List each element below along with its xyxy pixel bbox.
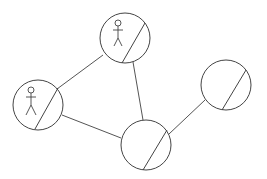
edge-left-top [57,55,103,89]
edge-top-bottom [133,62,143,120]
edge-bottom-right [169,100,205,134]
network-diagram [0,0,267,179]
node-top[interactable] [100,13,150,63]
node-bottom[interactable] [121,120,171,170]
edge-left-bottom [62,115,121,138]
node-right[interactable] [201,60,251,110]
node-left[interactable] [13,80,63,130]
